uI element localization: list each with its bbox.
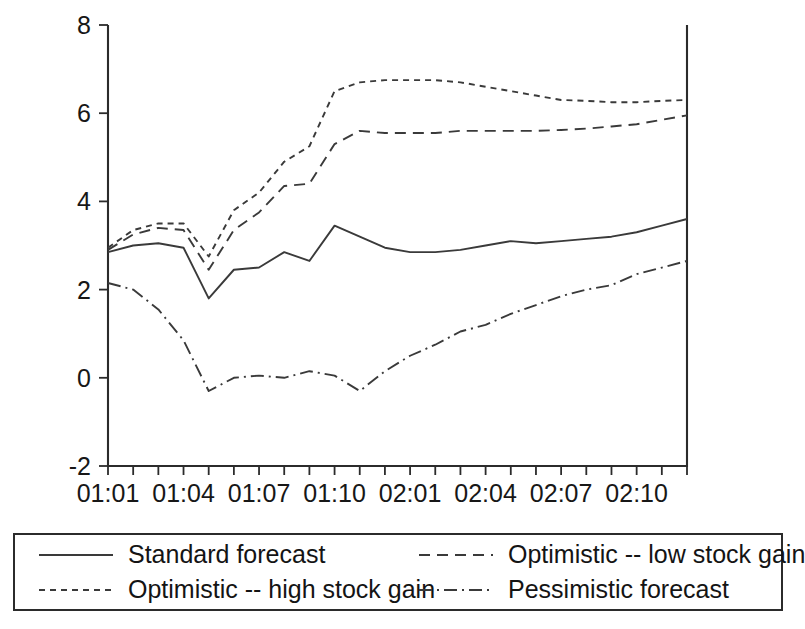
legend-grid: Standard forecast Optimistic -- low stoc… (15, 535, 781, 609)
x-tick-label: 02:10 (605, 479, 668, 507)
y-tick-label: 4 (77, 187, 91, 215)
data-series-group (108, 80, 687, 391)
axes-group (108, 25, 687, 466)
y-tick-label: 2 (77, 276, 91, 304)
legend-item-pessimistic-forecast: Pessimistic forecast (405, 577, 805, 602)
legend-swatch-solid-icon (37, 549, 115, 561)
y-axis-tick-labels: -202468 (69, 11, 91, 480)
legend-swatch-dashdot-icon (417, 584, 495, 596)
x-tick-label: 01:10 (303, 479, 366, 507)
y-tick-label: 8 (77, 11, 91, 39)
legend-swatch-dotted-icon (37, 584, 115, 596)
legend-item-optimistic-high: Optimistic -- high stock gain (15, 577, 405, 602)
legend-item-optimistic-low: Optimistic -- low stock gain (405, 542, 805, 567)
legend-box: Standard forecast Optimistic -- low stoc… (13, 533, 783, 611)
axis-frame (108, 25, 687, 466)
x-tick-label: 01:04 (152, 479, 215, 507)
y-axis-ticks (99, 25, 108, 466)
x-axis-ticks (108, 466, 687, 475)
x-axis-tick-labels: 01:0101:0401:0701:1002:0102:0402:0702:10 (77, 479, 668, 507)
y-tick-label: 0 (77, 364, 91, 392)
plot-area-container: -202468 01:0101:0401:0701:1002:0102:0402… (0, 0, 800, 520)
x-tick-label: 02:01 (379, 479, 442, 507)
legend-item-standard-forecast: Standard forecast (15, 542, 405, 567)
legend-label-optimistic-low: Optimistic -- low stock gain (508, 542, 805, 567)
series-line-dotted (108, 80, 687, 256)
line-chart-svg: -202468 01:0101:0401:0701:1002:0102:0402… (0, 0, 800, 520)
legend-label-standard-forecast: Standard forecast (128, 542, 325, 567)
x-tick-label: 02:04 (454, 479, 517, 507)
legend-label-pessimistic-forecast: Pessimistic forecast (508, 577, 729, 602)
x-tick-label: 01:01 (77, 479, 140, 507)
x-tick-label: 01:07 (228, 479, 291, 507)
legend-swatch-dashed-icon (417, 549, 495, 561)
series-line-dashed (108, 115, 687, 269)
series-line-dashdot (108, 261, 687, 391)
y-tick-label: -2 (69, 452, 91, 480)
legend-label-optimistic-high: Optimistic -- high stock gain (128, 577, 435, 602)
y-tick-label: 6 (77, 99, 91, 127)
x-tick-label: 02:07 (530, 479, 593, 507)
